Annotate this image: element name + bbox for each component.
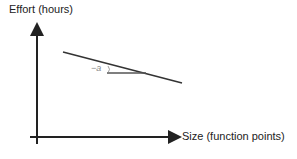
angle-label: −a [91, 63, 101, 73]
diagram: Effort (hours) Size (function points) −a [0, 0, 297, 159]
x-axis-arrowhead-icon [168, 130, 182, 144]
x-axis-label: Size (function points) [182, 130, 285, 142]
angle-arc-icon [108, 66, 110, 73]
y-axis-arrowhead-icon [30, 22, 44, 36]
y-axis-label: Effort (hours) [9, 3, 73, 15]
sloped-trend-line [63, 52, 182, 83]
